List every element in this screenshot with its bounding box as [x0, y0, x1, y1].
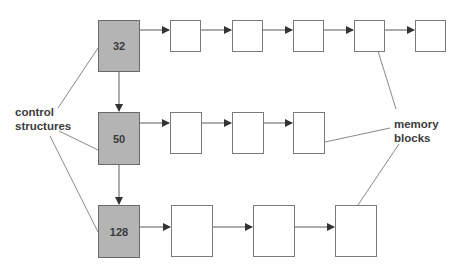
memory-label-leaders: [325, 51, 399, 205]
memory-block-r1-2: [232, 20, 263, 52]
control-structure-value: 128: [110, 226, 128, 238]
control-structures-label: control structures: [15, 105, 71, 133]
memory-label-line-2: blocks: [394, 131, 439, 145]
control-structure-50: 50: [98, 112, 140, 165]
memory-label-line-1: memory: [394, 117, 439, 131]
control-structure-value: 50: [113, 133, 125, 145]
memory-block-r1-4: [354, 20, 385, 52]
memory-block-r2-2: [232, 112, 264, 154]
memory-block-r1-1: [170, 20, 201, 52]
memory-block-r1-3: [293, 20, 324, 52]
memory-block-r3-3: [335, 205, 377, 257]
control-label-line-1: control: [15, 105, 71, 119]
memory-block-r3-1: [171, 205, 213, 257]
control-label-leaders: [50, 48, 98, 232]
control-label-line-2: structures: [15, 119, 71, 133]
memory-block-r2-1: [170, 112, 202, 154]
memory-block-r2-3: [293, 112, 325, 154]
memory-block-r3-2: [253, 205, 295, 257]
connector-layer: [0, 0, 459, 275]
control-structure-32: 32: [98, 20, 140, 72]
memory-block-r1-5: [415, 20, 446, 52]
control-structure-value: 32: [113, 40, 125, 52]
memory-blocks-label: memory blocks: [394, 117, 439, 145]
control-structure-128: 128: [98, 205, 140, 258]
